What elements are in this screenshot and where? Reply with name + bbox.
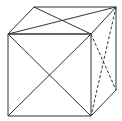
right-bottom-edge bbox=[91, 90, 116, 116]
cube-svg bbox=[0, 0, 122, 121]
top-diagonal-2 bbox=[8, 7, 116, 34]
right-diagonal-2 bbox=[91, 7, 116, 116]
cube-diagram bbox=[0, 0, 122, 121]
